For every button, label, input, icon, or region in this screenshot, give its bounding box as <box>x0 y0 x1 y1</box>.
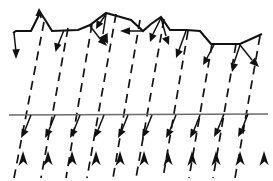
bottom-arrow-10 <box>235 151 244 166</box>
reference-ground-line <box>9 114 268 115</box>
surface-normal-13-shaft <box>240 45 252 60</box>
surface-normal-8-head <box>149 33 156 42</box>
ground-normal-4-shaft <box>98 115 104 130</box>
ground-normal-10 <box>238 114 248 137</box>
ground-normal-6-head <box>142 129 150 139</box>
ray-line-3 <box>66 24 92 178</box>
ground-normal-6 <box>142 115 152 138</box>
ground-normal-10-shaft <box>242 114 248 129</box>
ground-normal-2 <box>45 115 55 138</box>
surface-normal-3-head <box>54 43 61 53</box>
ground-normal-3 <box>70 115 80 138</box>
surface-normal-9-head <box>162 36 169 45</box>
surface-normal-5-head <box>96 20 103 29</box>
bottom-arrow-11 <box>259 151 268 166</box>
figure-root <box>0 0 273 181</box>
ground-normal-5-head <box>118 129 126 139</box>
surface-normal-1 <box>12 33 19 59</box>
surface-normal-7-head <box>120 27 130 35</box>
surface-normal-group <box>12 8 259 72</box>
ground-normal-6-shaft <box>146 115 152 130</box>
ground-normal-4 <box>94 115 104 138</box>
ground-normal-7 <box>166 115 176 138</box>
ray-group <box>14 14 260 178</box>
ray-line-6 <box>136 19 164 178</box>
ground-normal-5 <box>118 115 128 138</box>
surface-normal-4-shaft <box>90 26 101 40</box>
surface-normal-1-head <box>12 49 19 59</box>
bottom-arrow-4 <box>91 151 100 166</box>
ground-normal-7-shaft <box>170 115 176 130</box>
surface-normal-3-shaft <box>58 30 64 45</box>
terrain-ray-diagram-svg <box>0 0 273 181</box>
ground-normal-group <box>21 114 248 138</box>
ground-normal-4-head <box>94 129 102 139</box>
surface-normal-1-shaft <box>14 33 16 52</box>
ground-normal-1-head <box>21 129 29 139</box>
ray-line-1 <box>14 22 44 178</box>
ray-line-5 <box>113 20 140 178</box>
surface-normal-2-head <box>36 8 44 16</box>
surface-normal-12-head <box>231 63 238 72</box>
bottom-arrow-7 <box>163 151 172 166</box>
surface-normal-11-shaft <box>207 45 214 58</box>
ground-normal-3-head <box>70 129 78 139</box>
surface-normal-3 <box>54 30 64 52</box>
bottom-arrow-1 <box>18 151 27 166</box>
ray-line-2 <box>41 28 68 178</box>
bottom-arrow-group <box>18 151 268 166</box>
